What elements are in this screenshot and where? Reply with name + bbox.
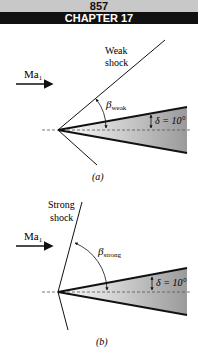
caption-b: (b) [96,336,108,348]
shock-label-a: Weak [105,45,128,56]
wedge-b [58,268,187,315]
beta-label-b: βstrong [97,245,121,259]
mach-label-b: Ma1 [24,230,43,244]
mach-label-a: Ma1 [24,68,43,82]
caption-a: (a) [92,171,104,183]
figure-a-weak-shock: Ma1 Weak shock βweak δ = 10° (a) [16,40,190,183]
figure-b-strong-shock: Ma1 Strong shock βstrong δ = 10° (b) [16,199,190,348]
beta-label-a: βweak [105,98,127,112]
svg-text:shock: shock [50,212,73,223]
delta-label-b: δ = 10° [156,277,186,288]
shock-diagrams: Ma1 Weak shock βweak δ = 10° (a) Ma1 Str… [0,0,198,363]
svg-text:shock: shock [105,57,128,68]
delta-label-a: δ = 10° [155,115,185,126]
shock-label-b: Strong [48,199,75,210]
